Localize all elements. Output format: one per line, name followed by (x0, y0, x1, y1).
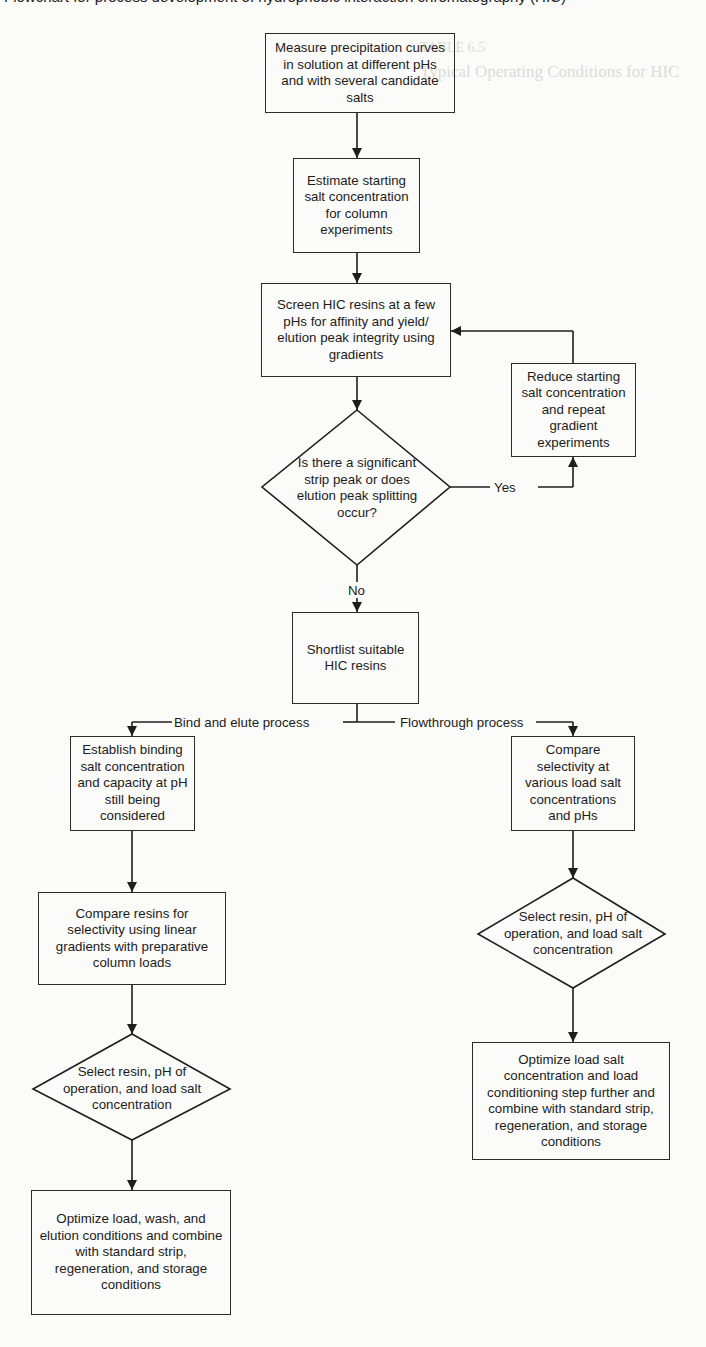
node-compare-resins: Compare resins for selectivity using lin… (38, 892, 226, 985)
node-optimize-left: Optimize load, wash, and elution conditi… (31, 1190, 231, 1315)
node-reduce-salt: Reduce starting salt concentration and r… (511, 363, 636, 457)
decision-strip-peak-text: Is there a significant strip peak or doe… (286, 455, 428, 521)
decision-select-right-label: Select resin, pH of operation, and load … (503, 907, 643, 961)
edge-label-bind-elute: Bind and elute process (172, 715, 311, 730)
node-measure-precipitation-label: Measure precipitation curves in solution… (272, 40, 448, 106)
node-compare-selectivity-label: Compare selectivity at various load salt… (518, 742, 628, 825)
decision-select-left-text: Select resin, pH of operation, and load … (62, 1064, 202, 1114)
node-optimize-right-label: Optimize load salt concentration and loa… (479, 1052, 663, 1151)
node-measure-precipitation: Measure precipitation curves in solution… (265, 33, 455, 113)
node-compare-resins-label: Compare resins for selectivity using lin… (45, 906, 219, 972)
node-establish-binding-label: Establish binding salt concentration and… (77, 742, 188, 825)
node-optimize-right: Optimize load salt concentration and loa… (472, 1042, 670, 1160)
node-compare-selectivity: Compare selectivity at various load salt… (511, 736, 635, 831)
node-shortlist-resins-label: Shortlist suitable HIC resins (299, 642, 412, 675)
decision-strip-peak-label: Is there a significant strip peak or doe… (286, 455, 428, 521)
node-estimate-salt-label: Estimate starting salt concentration for… (300, 173, 413, 239)
edge-label-yes: Yes (492, 480, 518, 495)
node-screen-hic-resins: Screen HIC resins at a few pHs for affin… (261, 283, 451, 377)
node-screen-hic-resins-label: Screen HIC resins at a few pHs for affin… (268, 297, 444, 363)
node-optimize-left-label: Optimize load, wash, and elution conditi… (38, 1211, 224, 1294)
node-estimate-salt: Estimate starting salt concentration for… (293, 158, 420, 253)
edge-label-no: No (346, 583, 367, 598)
edge-label-flowthrough: Flowthrough process (398, 715, 525, 730)
node-shortlist-resins: Shortlist suitable HIC resins (292, 612, 419, 704)
node-establish-binding: Establish binding salt concentration and… (70, 736, 195, 831)
decision-select-right-text: Select resin, pH of operation, and load … (503, 909, 643, 959)
node-reduce-salt-label: Reduce starting salt concentration and r… (518, 369, 629, 452)
decision-select-left-label: Select resin, pH of operation, and load … (62, 1062, 202, 1116)
